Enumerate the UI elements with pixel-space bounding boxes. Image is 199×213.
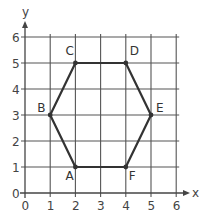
vertex-point-C	[73, 61, 78, 66]
y-tick-label-6: 6	[12, 31, 20, 45]
x-tick-label-3: 3	[97, 199, 105, 212]
y-axis-label: y	[22, 5, 29, 19]
vertex-point-D	[123, 61, 128, 66]
vertex-label-A: A	[65, 169, 74, 183]
x-tick-label-6: 6	[173, 199, 181, 212]
x-tick-label-4: 4	[122, 199, 130, 212]
coordinate-grid: x y 01234560123456 ABCDEF	[0, 0, 199, 212]
x-tick-label-5: 5	[148, 199, 156, 212]
y-tick-label-0: 0	[12, 187, 20, 201]
y-tick-label-4: 4	[12, 83, 20, 97]
vertex-label-F: F	[129, 169, 136, 183]
x-axis-label: x	[192, 186, 199, 200]
x-tick-label-2: 2	[72, 199, 80, 212]
y-tick-label-5: 5	[12, 57, 20, 71]
vertex-point-F	[123, 165, 128, 170]
vertex-label-C: C	[65, 44, 73, 58]
x-axis-arrow	[183, 190, 190, 196]
vertex-point-B	[48, 113, 53, 118]
y-tick-label-2: 2	[12, 135, 20, 149]
y-tick-label-3: 3	[12, 109, 20, 123]
vertex-point-E	[149, 113, 154, 118]
x-tick-label-0: 0	[22, 199, 30, 212]
vertex-label-B: B	[37, 101, 45, 115]
y-tick-label-1: 1	[12, 161, 20, 175]
vertex-point-A	[73, 165, 78, 170]
x-tick-label-1: 1	[47, 199, 55, 212]
y-axis-arrow	[22, 21, 28, 28]
vertex-label-E: E	[156, 101, 164, 115]
axes: x y	[20, 5, 199, 200]
tick-labels: 01234560123456	[12, 31, 180, 213]
grid-lines	[21, 34, 179, 197]
vertex-label-D: D	[130, 44, 139, 58]
